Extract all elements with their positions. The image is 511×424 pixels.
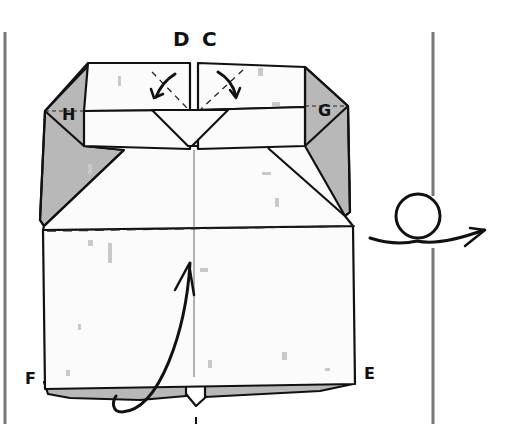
label-h: H <box>62 105 75 124</box>
bottom-point <box>186 394 207 406</box>
label-e: E <box>364 364 375 383</box>
origami-diagram: D C H G F E <box>0 0 511 424</box>
turn-over-icon <box>370 194 485 246</box>
lower-panel <box>43 226 355 389</box>
top-band-right-upper <box>198 63 305 110</box>
label-f: F <box>25 369 36 388</box>
label-g: G <box>318 101 331 120</box>
label-d: D <box>173 27 190 51</box>
label-c: C <box>202 27 217 51</box>
top-band-left-upper <box>84 63 190 111</box>
